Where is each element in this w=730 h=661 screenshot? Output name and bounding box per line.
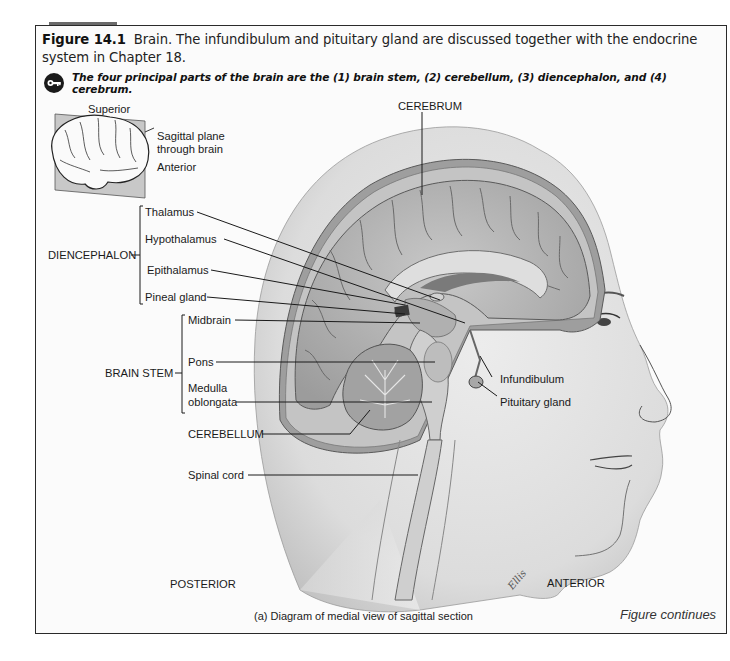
label-posterior: POSTERIOR [170,578,236,591]
label-thalamus: Thalamus [145,206,194,219]
figure-continues: Figure continues [620,607,716,622]
brain-illustration [0,0,730,661]
inset-label-anterior: Anterior [157,161,196,174]
label-anterior: ANTERIOR [547,577,605,590]
label-medulla-2: oblongata [188,396,237,409]
label-pons: Pons [188,356,214,369]
label-midbrain: Midbrain [188,314,231,327]
label-pineal-gland: Pineal gland [145,291,207,304]
label-infundibulum: Infundibulum [500,373,564,386]
label-pituitary-gland: Pituitary gland [500,396,571,409]
label-diencephalon: DIENCEPHALON [48,249,136,262]
label-medulla-1: Medulla [188,382,227,395]
label-brain-stem: BRAIN STEM [105,367,173,380]
label-cerebrum: CEREBRUM [398,100,462,113]
label-cerebellum: CEREBELLUM [188,428,264,441]
subfigure-caption: (a) Diagram of medial view of sagittal s… [254,610,473,622]
inset-brain-diagram [52,114,154,198]
inset-label-plane-2: through brain [157,143,223,156]
label-hypothalamus: Hypothalamus [145,233,217,246]
inset-label-superior: Superior [88,103,130,116]
inset-label-plane-1: Sagittal plane [157,130,225,143]
label-epithalamus: Epithalamus [147,264,209,277]
label-spinal-cord: Spinal cord [188,469,244,482]
